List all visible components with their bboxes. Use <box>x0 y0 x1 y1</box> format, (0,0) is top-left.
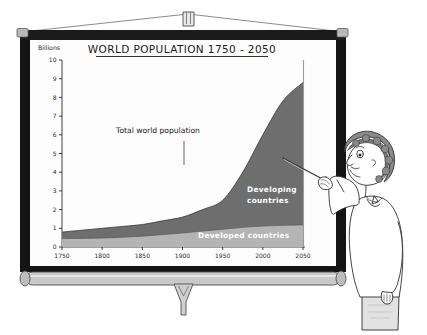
x-tick-label: 1900 <box>175 252 190 259</box>
annotation-developing-countries-line1: Developing <box>247 185 297 194</box>
screen-hanging-hook <box>22 12 344 32</box>
screen-cap-right <box>337 29 348 38</box>
y-axis-title: Billions <box>38 44 60 51</box>
x-tick-label: 1950 <box>215 252 230 259</box>
annotation-developed-countries: Developed countries <box>198 231 290 240</box>
y-tick-label: 6 <box>53 131 57 138</box>
chart-title: WORLD POPULATION 1750 - 2050 <box>88 43 276 55</box>
x-tick-label: 1750 <box>54 252 69 259</box>
y-tick-label: 8 <box>53 94 57 101</box>
cartoon-scene: Billions WORLD POPULATION 1750 - 2050 10… <box>0 0 427 335</box>
y-tick-label: 4 <box>53 168 57 175</box>
y-tick-label: 9 <box>53 75 57 82</box>
annotation-developing-countries-line2: countries <box>247 196 289 205</box>
annotation-total-world-population: Total world population <box>115 126 200 135</box>
screen-cap-left <box>17 29 28 38</box>
x-tick-label: 1850 <box>135 252 150 259</box>
y-tick-label: 2 <box>53 206 57 213</box>
screen-pull-handle[interactable] <box>174 284 193 315</box>
x-tick-label: 1800 <box>95 252 110 259</box>
y-tick-label: 7 <box>53 112 57 119</box>
illustration-canvas: Billions WORLD POPULATION 1750 - 2050 10… <box>0 0 427 335</box>
y-tick-label: 5 <box>53 150 57 157</box>
y-tick-label: 1 <box>53 224 57 231</box>
x-tick-label: 2050 <box>295 252 310 259</box>
y-tick-label: 10 <box>49 56 57 63</box>
x-tick-label: 2000 <box>255 252 270 259</box>
y-tick-label: 3 <box>53 187 57 194</box>
y-tick-label: 0 <box>53 243 57 250</box>
